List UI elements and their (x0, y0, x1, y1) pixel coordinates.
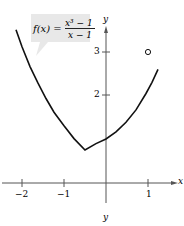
y-axis-label: y (103, 14, 108, 24)
x-axis-arrow-icon (171, 181, 178, 185)
y-tick-label: 2 (94, 89, 100, 99)
x-axis-label: x (178, 176, 183, 186)
fraction-bar (65, 28, 95, 29)
hole-marker (145, 49, 150, 54)
function-curve (16, 30, 158, 150)
x-tick-label: −2 (15, 189, 28, 199)
function-numerator: x³ − 1 (65, 18, 93, 28)
x-tick-label: 1 (146, 189, 152, 199)
function-denominator: x − 1 (68, 30, 92, 40)
y-tick-label: 3 (94, 46, 100, 56)
y-axis-arrow-icon (104, 26, 108, 33)
bottom-caption: y (103, 212, 108, 222)
function-lhs: f(x) = (33, 24, 62, 34)
x-tick-label: −1 (57, 189, 70, 199)
